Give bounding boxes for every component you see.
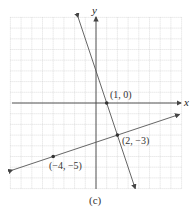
point-1-0 — [105, 101, 109, 105]
point-2-neg3 — [116, 133, 120, 137]
point-label-1-0: (1, 0) — [110, 89, 132, 101]
x-axis-label: x — [183, 96, 189, 108]
point-neg4-neg5 — [51, 155, 55, 159]
coordinate-plane: x y (1, 0) (2, −3) (−4, −5) (c) — [0, 0, 196, 222]
figure-caption: (c) — [89, 194, 102, 207]
point-label-2-neg3: (2, −3) — [122, 135, 149, 147]
y-axis-label: y — [91, 4, 97, 16]
point-label-neg4-neg5: (−4, −5) — [49, 160, 82, 172]
